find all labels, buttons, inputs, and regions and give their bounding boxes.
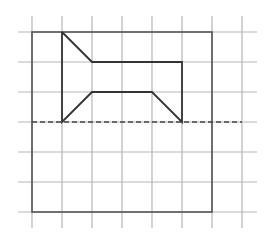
grid-diagram <box>0 0 270 234</box>
